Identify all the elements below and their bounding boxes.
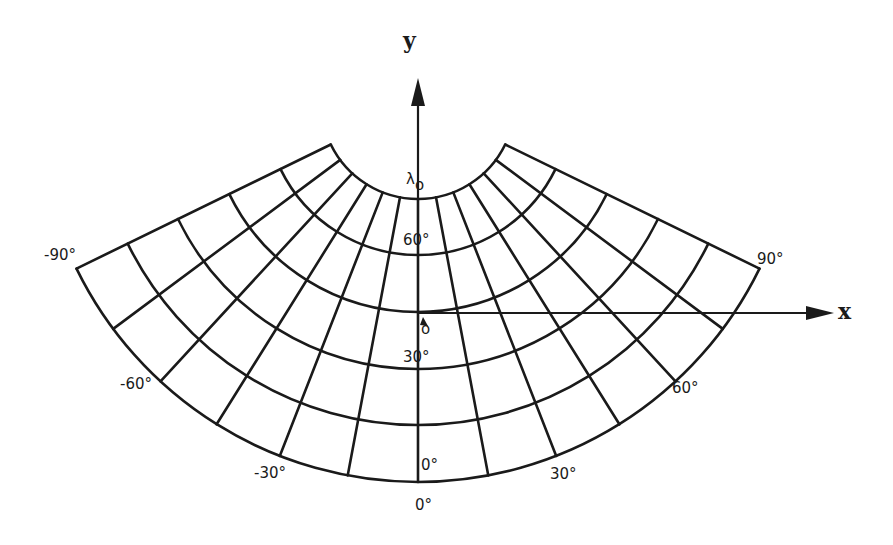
longitude-label-0: 0°	[415, 498, 432, 513]
meridian-line-30	[280, 192, 383, 456]
longitude-label-plus60: 60°	[672, 381, 699, 396]
meridian-line-75	[113, 160, 340, 329]
y-axis-arrowhead-icon	[411, 78, 425, 106]
phi-subscript: o	[421, 320, 430, 338]
lambda-subscript: o	[415, 176, 424, 194]
meridian-line-45	[217, 184, 367, 424]
phi0-label: o	[421, 316, 430, 337]
meridian-line-15	[348, 197, 400, 475]
longitude-label-plus30: 30°	[550, 467, 577, 482]
longitude-label-minus60: -60°	[120, 377, 152, 392]
meridian-line-minus60	[484, 173, 676, 381]
x-axis-arrowhead-icon	[806, 306, 834, 320]
longitude-label-plus90: 90°	[757, 252, 784, 267]
meridian-line-minus90	[505, 145, 759, 269]
lambda0-label: λo	[406, 172, 424, 193]
meridian-line-minus45	[469, 184, 619, 424]
latitude-label-0: 0°	[421, 458, 438, 473]
latitude-label-60: 60°	[403, 233, 430, 248]
conic-graticule-diagram	[0, 0, 893, 545]
meridian-line-minus75	[496, 160, 723, 329]
meridian-line-90	[77, 145, 331, 269]
x-axis-label: x	[838, 300, 851, 322]
longitude-label-minus30: -30°	[254, 466, 286, 481]
meridian-line-minus30	[453, 192, 556, 456]
meridian-line-60	[161, 173, 353, 381]
meridian-line-minus15	[436, 197, 488, 475]
latitude-label-30: 30°	[403, 350, 430, 365]
longitude-label-minus90: -90°	[44, 248, 76, 263]
y-axis-label: y	[403, 29, 416, 51]
lambda-symbol: λ	[406, 170, 415, 188]
